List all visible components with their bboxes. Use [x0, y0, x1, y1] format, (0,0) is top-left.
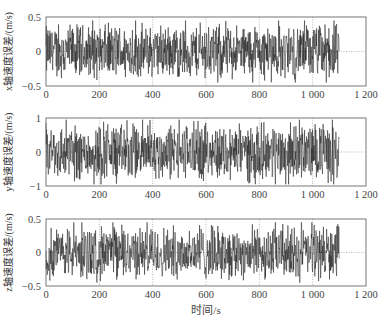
y-tick-label: 0	[36, 147, 41, 158]
x-tick-label: 0	[43, 89, 48, 100]
x-tick-label: 400	[145, 289, 161, 300]
y-axis-label: y轴速度误差/(m/s)	[2, 113, 15, 192]
y-tick-label: 0	[36, 46, 41, 57]
y-tick-label: −0.5	[22, 81, 41, 92]
x-tick-label: 400	[145, 189, 161, 200]
x-tick-label: 600	[198, 189, 214, 200]
panel-y: 02004006008001 0001 200−101y轴速度误差/(m/s)	[2, 113, 378, 201]
y-axis-label: z轴速度误差/(m/s)	[2, 213, 15, 291]
panel-x: 02004006008001 0001 200−0.500.5x轴速度误差/(m…	[2, 12, 378, 101]
y-tick-label: −0.5	[22, 281, 41, 292]
x-tick-label: 400	[145, 89, 161, 100]
y-tick-label: 0	[36, 247, 41, 258]
y-tick-label: 0.5	[28, 214, 41, 225]
y-axis-label: x轴速度误差/(m/s)	[2, 12, 15, 91]
x-tick-label: 800	[251, 189, 267, 200]
x-tick-label: 0	[43, 289, 48, 300]
signal-line	[46, 120, 339, 185]
y-tick-label: 1	[36, 113, 41, 124]
y-tick-label: −1	[30, 181, 41, 192]
x-tick-label: 1 200	[354, 89, 378, 100]
figure: 02004006008001 0001 200−0.500.5x轴速度误差/(m…	[0, 0, 388, 327]
x-tick-label: 200	[91, 189, 107, 200]
x-tick-label: 1 000	[301, 289, 325, 300]
x-tick-label: 600	[198, 289, 214, 300]
x-tick-label: 600	[198, 89, 214, 100]
x-tick-label: 0	[43, 189, 48, 200]
x-tick-label: 1 200	[354, 189, 378, 200]
signal-line	[46, 222, 339, 282]
x-tick-label: 200	[91, 89, 107, 100]
y-tick-label: 0.5	[28, 12, 41, 23]
x-tick-label: 1 200	[354, 289, 378, 300]
x-tick-label: 200	[91, 289, 107, 300]
x-tick-label: 800	[251, 289, 267, 300]
panel-z: 02004006008001 0001 200−0.500.5z轴速度误差/(m…	[2, 213, 378, 300]
x-tick-label: 800	[251, 89, 267, 100]
signal-line	[46, 21, 339, 83]
x-tick-label: 1 000	[301, 189, 325, 200]
x-axis-label: 时间/s	[191, 304, 220, 316]
x-tick-label: 1 000	[301, 89, 325, 100]
